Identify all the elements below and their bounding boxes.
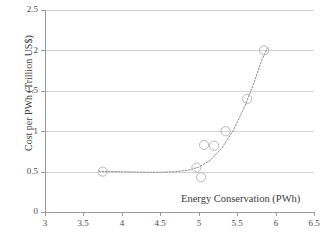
trendline — [99, 47, 268, 172]
data-point — [209, 141, 218, 150]
data-layer — [0, 0, 323, 242]
scatter-chart: 2.5 2 1.5 1 0.5 0 3 3.5 4 4.5 5 5.5 6 6.… — [0, 0, 323, 242]
data-point — [259, 46, 268, 55]
data-point-markers — [98, 46, 269, 182]
data-point — [243, 94, 252, 103]
data-point — [199, 140, 208, 149]
data-point — [192, 163, 201, 172]
data-point — [196, 173, 205, 182]
data-point — [221, 127, 230, 136]
